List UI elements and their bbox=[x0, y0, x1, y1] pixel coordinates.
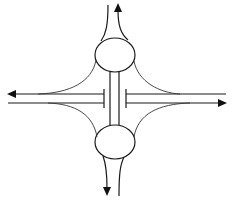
arrow-south-icon bbox=[103, 187, 111, 196]
south-road-left bbox=[103, 156, 107, 188]
ramp-ne bbox=[134, 61, 180, 94]
south-road-right bbox=[119, 157, 124, 196]
interchange-diagram bbox=[0, 0, 233, 200]
bridge-connector bbox=[110, 72, 119, 125]
south-roundabout bbox=[95, 125, 135, 159]
ramp-se bbox=[134, 103, 190, 137]
bridge-abutments bbox=[104, 89, 126, 108]
north-roundabout bbox=[95, 38, 135, 72]
arrow-north-icon bbox=[114, 3, 122, 12]
ramp-nw bbox=[38, 60, 96, 94]
arrow-east-icon bbox=[218, 99, 227, 107]
north-road-right bbox=[118, 10, 128, 40]
mainline bbox=[7, 90, 227, 107]
north-approach bbox=[101, 3, 128, 41]
arrow-west-icon bbox=[7, 90, 16, 98]
north-road-left bbox=[101, 5, 108, 41]
ramp-sw bbox=[48, 103, 97, 137]
south-approach bbox=[103, 156, 124, 196]
